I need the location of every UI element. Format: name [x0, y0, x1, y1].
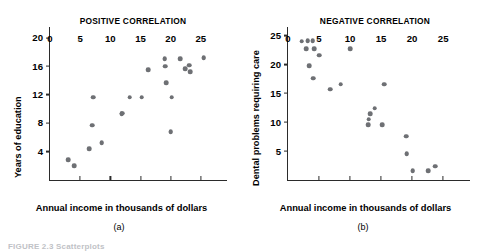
y-tick-label: 16 — [32, 61, 43, 71]
x-tick-mark — [443, 176, 444, 181]
data-point — [304, 47, 309, 52]
y-tick-mark — [46, 94, 51, 95]
data-point — [90, 123, 95, 128]
plot-area-a: 481216200510152025 — [49, 27, 225, 181]
data-point — [312, 47, 317, 52]
x-tick-label: 0 — [47, 34, 52, 44]
y-tick-mark — [284, 151, 289, 152]
chart-panel-b: NEGATIVE CORRELATION Dental problems req… — [242, 0, 484, 240]
data-point — [426, 168, 431, 173]
y-tick-mark — [46, 66, 51, 67]
data-point — [317, 53, 322, 58]
y-tick-mark — [46, 122, 51, 123]
y-tick-label: 25 — [270, 31, 281, 41]
x-tick-label: 10 — [345, 34, 356, 44]
x-tick-label: 10 — [105, 34, 116, 44]
x-tick-label: 5 — [78, 34, 83, 44]
x-tick-mark — [349, 176, 350, 181]
y-tick-label: 4 — [38, 147, 43, 157]
data-point — [404, 152, 409, 157]
data-point — [373, 106, 378, 111]
data-point — [307, 63, 312, 68]
data-point — [168, 129, 173, 134]
chart-panel-a: POSITIVE CORRELATION Years of education … — [0, 0, 242, 240]
x-tick-label: 25 — [196, 34, 207, 44]
data-point — [306, 39, 311, 44]
x-tick-mark — [170, 176, 171, 181]
y-axis-title-a: Years of education — [13, 96, 23, 178]
data-point — [299, 39, 304, 44]
data-point — [87, 146, 92, 151]
data-point — [188, 70, 193, 75]
data-point — [366, 117, 371, 122]
x-tick-mark — [318, 176, 319, 181]
data-point — [433, 164, 438, 169]
panel-sublabel-b: (b) — [318, 222, 408, 232]
y-tick-label: 12 — [32, 90, 43, 100]
y-axis-title-b: Dental problems requiring care — [251, 50, 261, 186]
data-point — [170, 95, 175, 100]
data-point — [348, 47, 353, 52]
x-tick-label: 20 — [165, 34, 176, 44]
x-tick-mark — [140, 176, 141, 181]
x-axis-title-b: Annual income in thousands of dollars — [258, 203, 473, 213]
x-tick-label: 15 — [135, 34, 146, 44]
x-tick-label: 20 — [407, 34, 418, 44]
data-point — [139, 95, 144, 100]
data-point — [100, 141, 105, 146]
x-axis-extension-b — [468, 180, 470, 181]
data-point — [366, 122, 371, 127]
chart-title-b: NEGATIVE CORRELATION — [300, 16, 450, 26]
y-tick-label: 5 — [276, 146, 281, 156]
y-tick-mark — [284, 64, 289, 65]
y-tick-label: 8 — [38, 118, 43, 128]
figure-caption: FIGURE 2.3 Scatterplots — [8, 242, 105, 251]
x-tick-mark — [110, 176, 111, 181]
x-tick-mark — [80, 176, 81, 181]
y-tick-mark — [284, 93, 289, 94]
data-point — [382, 82, 387, 87]
data-point — [311, 39, 316, 44]
y-tick-label: 15 — [270, 89, 281, 99]
data-point — [410, 168, 415, 173]
data-point — [163, 64, 168, 69]
data-point — [162, 57, 167, 62]
data-point — [127, 95, 132, 100]
x-tick-mark — [412, 176, 413, 181]
data-point — [328, 87, 333, 92]
y-tick-mark — [46, 151, 51, 152]
x-axis-extension-a — [225, 180, 227, 181]
y-tick-mark — [284, 122, 289, 123]
panel-sublabel-a: (a) — [74, 222, 164, 232]
data-point — [66, 158, 71, 163]
data-point — [368, 111, 373, 116]
y-tick-label: 10 — [270, 117, 281, 127]
data-point — [311, 76, 316, 81]
x-axis-title-a: Annual income in thousands of dollars — [14, 203, 229, 213]
x-tick-label: 0 — [285, 34, 290, 44]
data-point — [404, 134, 409, 139]
data-point — [120, 111, 125, 116]
x-tick-mark — [200, 176, 201, 181]
x-tick-label: 25 — [438, 34, 449, 44]
data-point — [72, 163, 77, 168]
data-point — [380, 122, 385, 127]
data-point — [338, 82, 343, 87]
data-point — [164, 80, 169, 85]
chart-title-a: POSITIVE CORRELATION — [58, 16, 208, 26]
plot-area-b: 5101520250510152025 — [287, 27, 468, 181]
figure-scatterplots: POSITIVE CORRELATION Years of education … — [0, 0, 484, 251]
x-tick-label: 5 — [316, 34, 321, 44]
y-tick-label: 20 — [32, 33, 43, 43]
data-point — [187, 63, 192, 68]
x-tick-label: 15 — [376, 34, 387, 44]
data-point — [178, 57, 183, 62]
y-tick-label: 20 — [270, 60, 281, 70]
data-point — [202, 55, 207, 60]
data-point — [146, 67, 151, 72]
x-tick-mark — [381, 176, 382, 181]
data-point — [91, 95, 96, 100]
